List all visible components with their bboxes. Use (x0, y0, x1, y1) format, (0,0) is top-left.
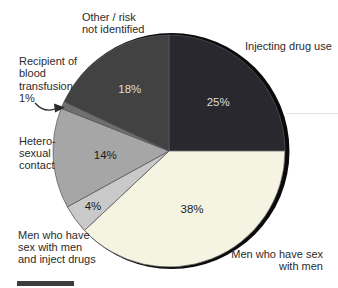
label-msm: Men who have sex with men (231, 248, 323, 272)
pie-pct-label-1: 38% (181, 203, 204, 215)
pie-pct-label-0: 25% (207, 96, 230, 108)
label-other-risk: Other / risk not identified (82, 11, 144, 35)
label-blood-transfusion: Recipient of blood transfusion 1% (19, 55, 77, 104)
label-injecting-drug-use: Injecting drug use (245, 40, 332, 52)
bottom-bar-mark (17, 281, 74, 286)
pie-pct-label-5: 18% (118, 83, 141, 95)
callout-arrow-icon (30, 98, 70, 118)
pie-pct-label-3: 14% (94, 149, 117, 161)
pie-chart-figure: 25%38%4%14%18% Other / risk not identifi… (0, 0, 338, 288)
label-msm-inject-drugs: Men who have sex with men and inject dru… (18, 229, 96, 265)
pie-slice-0 (169, 35, 285, 151)
label-heterosexual-contact: Hetero- sexual contact (19, 135, 56, 171)
pie-pct-label-2: 4% (85, 200, 102, 212)
